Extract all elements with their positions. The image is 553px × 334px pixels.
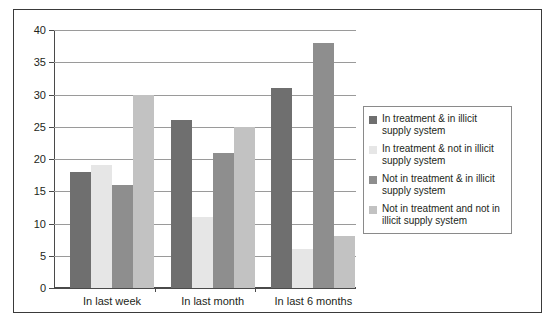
legend-item-label: Not in treatment & in illicit supply sys… (382, 173, 506, 197)
y-tick-mark (49, 127, 54, 128)
legend-item-label: Not in treatment and not in illicit supp… (382, 203, 506, 227)
bar (313, 43, 334, 288)
x-category-label: In last month (181, 295, 244, 307)
bar (271, 88, 292, 288)
x-tick-mark (255, 288, 256, 292)
legend-item-label: In treatment & not in illicit supply sys… (382, 143, 506, 167)
gridline (54, 288, 356, 289)
y-tick-label: 20 (34, 153, 46, 165)
x-category-label: In last week (83, 295, 141, 307)
gridline (54, 62, 356, 63)
legend-swatch-icon (369, 206, 377, 214)
bar (192, 217, 213, 288)
y-tick-mark (49, 30, 54, 31)
y-tick-label: 0 (40, 282, 46, 294)
bar (234, 127, 255, 288)
y-tick-mark (49, 191, 54, 192)
y-tick-label: 35 (34, 56, 46, 68)
legend-item-label: In treatment & in illicit supply system (382, 113, 506, 137)
y-tick-mark (49, 224, 54, 225)
bar (112, 185, 133, 288)
y-tick-label: 30 (34, 89, 46, 101)
gridline (54, 95, 356, 96)
y-tick-mark (49, 95, 54, 96)
y-tick-label: 25 (34, 121, 46, 133)
bar (292, 249, 313, 288)
legend-item: Not in treatment and not in illicit supp… (369, 203, 506, 227)
legend-item: In treatment & in illicit supply system (369, 113, 506, 137)
y-tick-label: 15 (34, 185, 46, 197)
y-tick-label: 40 (34, 24, 46, 36)
legend-swatch-icon (369, 176, 377, 184)
bar (171, 120, 192, 288)
chart-figure: 0510152025303540 In last weekIn last mon… (13, 9, 542, 313)
y-tick-label: 5 (40, 250, 46, 262)
legend-item: In treatment & not in illicit supply sys… (369, 143, 506, 167)
gridline (54, 30, 356, 31)
gridline (54, 127, 356, 128)
bar (70, 172, 91, 288)
x-tick-mark (155, 288, 156, 292)
bar (91, 165, 112, 288)
bar (133, 95, 154, 289)
y-tick-mark (49, 62, 54, 63)
bar (334, 236, 355, 288)
chart-legend: In treatment & in illicit supply systemI… (363, 106, 512, 234)
legend-swatch-icon (369, 146, 377, 154)
y-tick-label: 10 (34, 218, 46, 230)
y-tick-mark (49, 288, 54, 289)
x-category-label: In last 6 months (275, 295, 353, 307)
gridline (54, 159, 356, 160)
legend-swatch-icon (369, 116, 377, 124)
bar (213, 153, 234, 288)
plot-area: 0510152025303540 In last weekIn last mon… (54, 30, 356, 288)
y-tick-mark (49, 159, 54, 160)
y-tick-mark (49, 256, 54, 257)
legend-item: Not in treatment & in illicit supply sys… (369, 173, 506, 197)
